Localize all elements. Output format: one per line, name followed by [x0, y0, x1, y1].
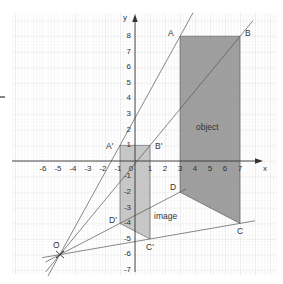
svg-text:2: 2 — [127, 125, 132, 134]
svg-text:-7: -7 — [124, 265, 132, 274]
x-axis-label: x — [263, 164, 267, 173]
svg-text:-4: -4 — [69, 164, 77, 173]
svg-text:-1: -1 — [114, 164, 122, 173]
y-axis-label: y — [123, 13, 127, 22]
svg-text:6: 6 — [127, 62, 132, 71]
vertex-a-prime-label: A' — [106, 141, 114, 151]
svg-text:-6: -6 — [124, 249, 132, 258]
svg-text:-5: -5 — [54, 164, 62, 173]
svg-text:7: 7 — [127, 47, 132, 56]
svg-text:3: 3 — [127, 109, 132, 118]
vertex-d-label: D — [170, 182, 176, 192]
image-label: image — [154, 211, 177, 221]
vertex-c-prime-label: C' — [146, 242, 154, 252]
svg-text:4: 4 — [127, 93, 132, 102]
svg-text:-3: -3 — [84, 164, 92, 173]
svg-text:1: 1 — [148, 164, 153, 173]
svg-text:6: 6 — [223, 164, 228, 173]
vertex-b-label: B — [245, 28, 251, 38]
vertex-d-prime-label: D' — [109, 215, 117, 225]
svg-text:-2: -2 — [124, 187, 132, 196]
svg-text:5: 5 — [208, 164, 213, 173]
svg-text:1: 1 — [127, 140, 132, 149]
svg-text:7: 7 — [238, 164, 243, 173]
vertex-c-label: C — [237, 226, 243, 236]
svg-text:2: 2 — [163, 164, 168, 173]
svg-text:-4: -4 — [124, 218, 132, 227]
svg-text:-3: -3 — [124, 203, 132, 212]
object-label: object — [196, 122, 219, 132]
center-label: O — [53, 240, 60, 250]
svg-text:3: 3 — [178, 164, 183, 173]
svg-text:-5: -5 — [124, 234, 132, 243]
enlargement-diagram: x y -6 -5 -4 -3 -2 -1 0 1 2 3 4 5 6 7 8 … — [0, 0, 283, 284]
svg-text:-1: -1 — [124, 171, 132, 180]
svg-text:8: 8 — [127, 31, 132, 40]
vertex-b-prime-label: B' — [155, 141, 163, 151]
svg-text:4: 4 — [193, 164, 198, 173]
vertex-a-label: A — [168, 28, 174, 38]
svg-text:5: 5 — [127, 78, 132, 87]
svg-text:-6: -6 — [39, 164, 47, 173]
svg-text:-2: -2 — [99, 164, 107, 173]
